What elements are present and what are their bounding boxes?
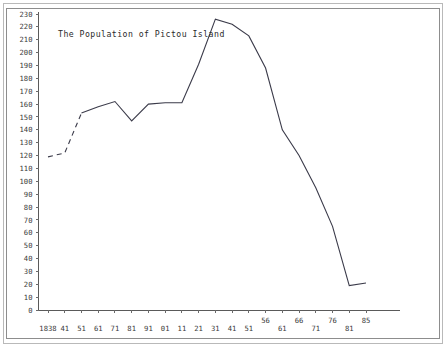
y-tick-label: 150 (20, 113, 33, 122)
y-tick-label: 10 (24, 293, 33, 302)
y-tick-label: 20 (24, 280, 33, 289)
y-tick-label: 60 (24, 228, 33, 237)
y-tick-label: 130 (20, 138, 33, 147)
y-tick-label: 70 (24, 216, 33, 225)
y-tick-label: 100 (20, 177, 33, 186)
x-tick-label: 85 (362, 316, 371, 325)
y-tick-label: 120 (20, 151, 33, 160)
y-tick-label: 200 (20, 48, 33, 57)
x-tick-label: 31 (211, 324, 220, 333)
y-tick-label: 80 (24, 203, 33, 212)
x-tick-label: 71 (311, 324, 320, 333)
series-line (81, 19, 366, 285)
x-tick-label: 56 (261, 316, 270, 325)
y-tick-label: 50 (24, 241, 33, 250)
x-tick-label: 71 (111, 324, 120, 333)
y-tick-label: 230 (20, 10, 33, 19)
x-tick-label: 51 (77, 324, 86, 333)
x-tick-label: 1838 (39, 324, 56, 333)
x-tick-label: 21 (194, 324, 203, 333)
y-tick-label: 110 (20, 164, 33, 173)
x-tick-label: 66 (295, 316, 304, 325)
y-axis: 2302202102001901801701601501401301201101… (20, 10, 39, 315)
x-tick-label: 81 (345, 324, 354, 333)
x-tick-label: 81 (127, 324, 136, 333)
line-chart: 2302202102001901801701601501401301201101… (0, 0, 446, 347)
x-tick-label: 61 (94, 324, 103, 333)
x-tick-label: 76 (328, 316, 337, 325)
x-tick-label: 41 (60, 324, 69, 333)
y-tick-label: 190 (20, 61, 33, 70)
x-tick-label: 11 (178, 324, 187, 333)
y-tick-label: 90 (24, 190, 33, 199)
y-tick-label: 40 (24, 254, 33, 263)
y-tick-label: 160 (20, 100, 33, 109)
x-tick-label: 41 (228, 324, 237, 333)
y-tick-label: 210 (20, 35, 33, 44)
x-axis: 1838415161718191011121314151566166717681… (39, 310, 401, 333)
y-tick-label: 0 (28, 306, 32, 315)
y-tick-label: 140 (20, 125, 33, 134)
y-tick-label: 220 (20, 22, 33, 31)
y-tick-label: 170 (20, 87, 33, 96)
x-tick-label: 91 (144, 324, 153, 333)
y-tick-label: 180 (20, 74, 33, 83)
x-tick-label: 51 (245, 324, 254, 333)
series-line-estimated (48, 113, 81, 157)
chart-page: 2302202102001901801701601501401301201101… (0, 0, 446, 347)
chart-title: The Population of Pictou Island (58, 29, 225, 39)
data-series (48, 19, 366, 285)
x-tick-label: 01 (161, 324, 170, 333)
x-tick-label: 61 (278, 324, 287, 333)
y-tick-label: 30 (24, 267, 33, 276)
